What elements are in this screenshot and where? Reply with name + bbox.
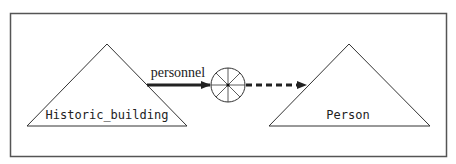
diagram-canvas: Historic_building Person personnel bbox=[0, 0, 456, 164]
node-person[interactable]: Person bbox=[269, 44, 430, 126]
node-label-person: Person bbox=[326, 108, 369, 122]
relationship-edge-in[interactable]: personnel bbox=[147, 65, 210, 85]
wheel-circle-icon[interactable] bbox=[211, 68, 245, 102]
node-label-historic-building: Historic_building bbox=[46, 108, 169, 122]
relationship-label: personnel bbox=[151, 65, 206, 80]
